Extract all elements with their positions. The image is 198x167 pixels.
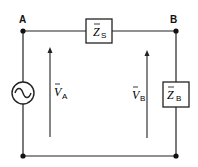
circuit-diagram: A B Z S Z B V A V B xyxy=(0,0,198,167)
node-b-dot xyxy=(173,28,178,33)
zb-subscript: B xyxy=(176,94,181,103)
impedance-zb: Z B xyxy=(163,82,189,107)
node-bottom-right-dot xyxy=(173,153,178,158)
node-a-label: A xyxy=(19,14,26,25)
node-a-dot xyxy=(20,28,25,33)
vb-subscript: B xyxy=(140,94,145,103)
node-bottom-left-dot xyxy=(20,153,25,158)
va-subscript: A xyxy=(62,92,68,101)
voltage-arrow-va xyxy=(48,47,53,137)
zs-subscript: S xyxy=(101,31,106,40)
node-b-label: B xyxy=(170,14,177,25)
zs-symbol: Z xyxy=(93,25,100,39)
zb-symbol: Z xyxy=(167,88,174,102)
impedance-zs: Z S xyxy=(86,19,112,43)
ac-source-icon xyxy=(12,82,34,104)
